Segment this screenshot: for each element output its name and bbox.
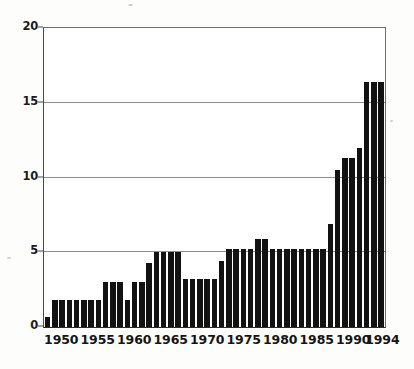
x-tick-label-1950: 1950 <box>44 333 78 347</box>
bar-slot <box>312 28 319 327</box>
bar <box>219 261 225 327</box>
bar-slot <box>73 28 80 327</box>
bar <box>349 158 355 327</box>
bar <box>277 249 283 327</box>
bar <box>125 300 131 327</box>
scan-speck-2 <box>390 120 393 122</box>
bar <box>299 249 305 327</box>
x-tick-label-1980: 1980 <box>263 333 297 347</box>
bar <box>88 300 94 327</box>
bar <box>270 249 276 327</box>
bar <box>357 148 363 327</box>
plot-area <box>43 27 386 328</box>
bar-slot <box>247 28 254 327</box>
bar-slot <box>175 28 182 327</box>
bar-slot <box>341 28 348 327</box>
bar-slot <box>211 28 218 327</box>
bar <box>103 282 109 327</box>
bar-slot <box>370 28 377 327</box>
bar <box>175 252 181 327</box>
bar <box>190 279 196 327</box>
x-tick-label-1970: 1970 <box>190 333 224 347</box>
bar-slot <box>182 28 189 327</box>
bar-slot <box>240 28 247 327</box>
bar-slot <box>102 28 109 327</box>
bar-slot <box>167 28 174 327</box>
bar <box>233 249 239 327</box>
x-tick-label-1960: 1960 <box>117 333 151 347</box>
bar <box>284 249 290 327</box>
bar-slot <box>95 28 102 327</box>
scan-speck-1 <box>7 257 11 259</box>
bar <box>110 282 116 327</box>
bar <box>154 252 160 327</box>
bar-slot <box>254 28 261 327</box>
bar-slot <box>327 28 334 327</box>
bar <box>255 239 261 327</box>
bar-slot <box>146 28 153 327</box>
bar-slot <box>44 28 51 327</box>
bar <box>212 279 218 327</box>
bar <box>335 170 341 327</box>
bar-slot <box>131 28 138 327</box>
bar-slot <box>233 28 240 327</box>
bar <box>117 282 123 327</box>
bar-slot <box>66 28 73 327</box>
bar-slot <box>276 28 283 327</box>
bar <box>342 158 348 327</box>
x-tick-label-1994: 1994 <box>365 333 399 347</box>
x-tick-label-1985: 1985 <box>299 333 333 347</box>
bar <box>371 82 377 327</box>
bar <box>313 249 319 327</box>
bar <box>52 300 58 327</box>
scan-speck-0 <box>128 4 133 6</box>
x-tick-label-1955: 1955 <box>81 333 115 347</box>
bar <box>306 249 312 327</box>
bar <box>161 252 167 327</box>
bar-slot <box>283 28 290 327</box>
y-tick-label-5: 5 <box>30 246 38 258</box>
bar-slot <box>51 28 58 327</box>
bar-series <box>44 28 385 327</box>
bar-slot <box>298 28 305 327</box>
bar <box>183 279 189 327</box>
bar-chart-figure: 05101520 1950195519601965197019751980198… <box>0 0 414 369</box>
y-axis: 05101520 <box>0 27 38 328</box>
bar <box>45 317 51 327</box>
bar-slot <box>117 28 124 327</box>
bar <box>226 249 232 327</box>
bar <box>328 224 334 327</box>
bar-slot <box>334 28 341 327</box>
bar <box>132 282 138 327</box>
bar <box>81 300 87 327</box>
bar <box>96 300 102 327</box>
bar <box>197 279 203 327</box>
bar <box>146 263 152 327</box>
y-tick-label-15: 15 <box>22 96 38 108</box>
bar-slot <box>291 28 298 327</box>
bar <box>364 82 370 327</box>
bar-slot <box>363 28 370 327</box>
y-tick-label-20: 20 <box>22 21 38 33</box>
bar <box>248 249 254 327</box>
bar <box>139 282 145 327</box>
bar-slot <box>80 28 87 327</box>
bar <box>204 279 210 327</box>
bar-slot <box>204 28 211 327</box>
y-tick-label-10: 10 <box>22 171 38 183</box>
bar-slot <box>109 28 116 327</box>
bar-slot <box>124 28 131 327</box>
bar-slot <box>153 28 160 327</box>
bar-slot <box>59 28 66 327</box>
bar-slot <box>305 28 312 327</box>
bar-slot <box>138 28 145 327</box>
bar-slot <box>218 28 225 327</box>
bar <box>74 300 80 327</box>
bar <box>67 300 73 327</box>
bar-slot <box>160 28 167 327</box>
bar <box>378 82 384 327</box>
bar-slot <box>88 28 95 327</box>
bar-slot <box>356 28 363 327</box>
bar <box>241 249 247 327</box>
y-tick-label-0: 0 <box>30 320 38 332</box>
